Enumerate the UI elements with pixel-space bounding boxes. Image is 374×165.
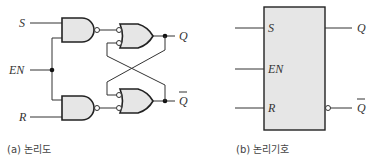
or-bottom-bubble-2 bbox=[117, 106, 122, 111]
logic-symbol: S EN R Q Q (b) 논리기호 bbox=[235, 7, 366, 155]
caption-logic-symbol: (b) 논리기호 bbox=[236, 144, 289, 155]
symbol-label-r: R bbox=[267, 101, 276, 115]
caption-logic-diagram: (a) 논리도 bbox=[7, 144, 51, 155]
or-gate-top bbox=[120, 24, 153, 48]
nand-gate-bottom bbox=[62, 96, 94, 120]
junction-en bbox=[50, 68, 55, 73]
symbol-label-s: S bbox=[268, 21, 274, 35]
gated-sr-latch-figure: S EN R Q Q (a) 논리 bbox=[0, 0, 374, 165]
or-top-bubble-2 bbox=[117, 41, 122, 46]
symbol-q-bar-bubble bbox=[326, 106, 331, 111]
or-top-bubble-1 bbox=[117, 28, 122, 33]
nand-bottom-bubble bbox=[95, 106, 100, 111]
output-label-q: Q bbox=[179, 29, 188, 43]
or-gate-bottom bbox=[120, 89, 153, 113]
input-label-s: S bbox=[19, 16, 25, 30]
symbol-output-label-q: Q bbox=[357, 21, 366, 35]
logic-diagram: S EN R Q Q (a) 논리 bbox=[7, 16, 188, 155]
nand-gate-top bbox=[62, 18, 94, 42]
symbol-label-en: EN bbox=[267, 62, 284, 76]
input-label-en: EN bbox=[8, 63, 25, 77]
input-label-r: R bbox=[18, 110, 27, 124]
output-label-q-bar: Q bbox=[179, 94, 188, 108]
symbol-output-label-q-bar: Q bbox=[357, 101, 366, 115]
or-bottom-bubble-1 bbox=[117, 93, 122, 98]
nand-top-bubble bbox=[95, 28, 100, 33]
